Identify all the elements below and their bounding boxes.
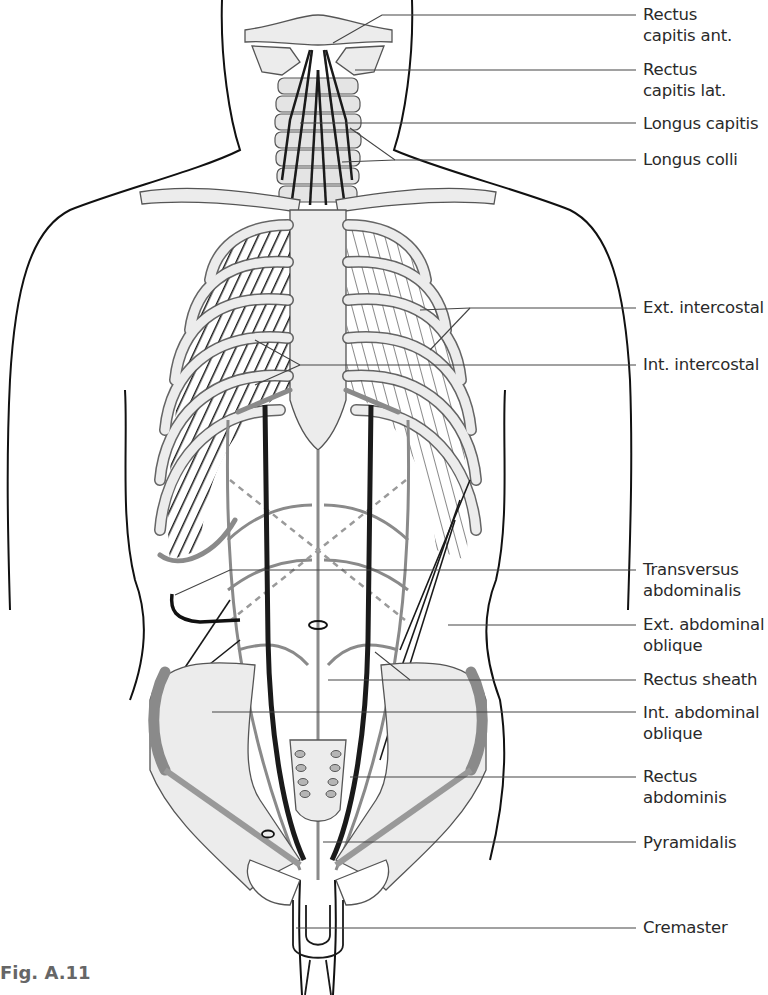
label-rectus-abdominis: Rectus abdominis	[643, 766, 727, 808]
label-rectus-capitis-ant: Rectus capitis ant.	[643, 4, 732, 46]
label-int-intercostal: Int. intercostal	[643, 354, 759, 375]
label-int-abdominal-oblique: Int. abdominal oblique	[643, 702, 759, 744]
label-transversus-abdominalis: Transversus abdominalis	[643, 559, 741, 601]
label-cremaster: Cremaster	[643, 917, 727, 938]
label-ext-intercostal: Ext. intercostal	[643, 297, 764, 318]
label-longus-capitis: Longus capitis	[643, 113, 758, 134]
sternum	[290, 210, 346, 450]
label-ext-abdominal-oblique: Ext. abdominal oblique	[643, 614, 764, 656]
label-longus-colli: Longus colli	[643, 149, 738, 170]
ribcage-left	[160, 220, 290, 560]
transversus-hook	[172, 594, 240, 622]
label-rectus-sheath: Rectus sheath	[643, 669, 757, 690]
label-rectus-capitis-lat: Rectus capitis lat.	[643, 59, 726, 101]
label-pyramidalis: Pyramidalis	[643, 832, 736, 853]
skull-base	[245, 15, 392, 75]
figure-caption: Fig. A.11	[0, 962, 91, 983]
